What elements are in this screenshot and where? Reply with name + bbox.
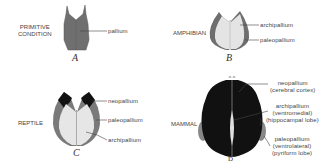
label-archipallium-d: archipallium (ventromedial) (hippocampal… (266, 103, 319, 124)
group-label-reptile: REPTILE (18, 120, 43, 127)
label-neopallium-d: neopallium (cerebral cortex) (270, 80, 315, 94)
label-pallium: pallium (108, 28, 128, 35)
panel-b-brain (210, 11, 249, 50)
label-paleopallium-b: paleopallium (260, 37, 295, 44)
caption-d: D (228, 155, 233, 161)
group-label-amphibian: AMPHIBIAN (173, 30, 206, 37)
panel-d-brain (198, 76, 266, 157)
label-neopallium-c: neopallium (108, 98, 138, 105)
panel-a-brain (64, 5, 89, 50)
group-label-line-1: PRIMITIVE (18, 24, 52, 31)
label-archipallium-name: archipallium (266, 103, 319, 110)
label-paleopallium-note-2: (pyriform lobe) (272, 150, 312, 157)
label-paleopallium-note-1: (ventrolateral) (272, 143, 312, 150)
label-paleopallium-d: paleopallium (ventrolateral) (pyriform l… (272, 136, 312, 157)
group-label-primitive: PRIMITIVE CONDITION (18, 24, 52, 38)
label-archipallium-b: archipallium (260, 22, 293, 29)
leader-line-paleopallium-d (264, 136, 270, 146)
label-archipallium-note-2: (hippocampal lobe) (266, 117, 319, 124)
caption-a: A (72, 52, 78, 63)
caption-b: B (226, 52, 232, 63)
group-label-line-2: CONDITION (18, 31, 52, 38)
label-neopallium-note: (cerebral cortex) (270, 87, 315, 94)
panel-c-brain (53, 92, 100, 146)
label-archipallium-note-1: (ventromedial) (266, 110, 319, 117)
label-paleopallium-c: paleopallium (108, 117, 143, 124)
caption-c: C (73, 147, 80, 158)
label-neopallium-name: neopallium (270, 80, 315, 87)
group-label-mammal: MAMMAL (171, 121, 197, 128)
label-archipallium-c: archipallium (108, 137, 141, 144)
label-paleopallium-name: paleopallium (272, 136, 312, 143)
